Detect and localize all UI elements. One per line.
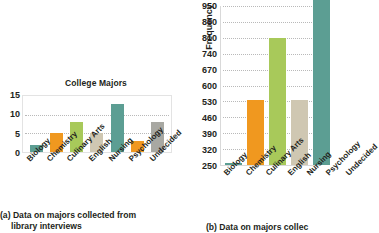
panel-a-caption-line2: library interviews xyxy=(11,221,176,232)
panel-b-ytick-460: 460 xyxy=(202,113,217,123)
panel-b-ytick-390: 390 xyxy=(202,129,217,139)
panel-a-caption-line1: (a) Data on majors collected from xyxy=(0,210,136,220)
panel-b-ytick-600: 600 xyxy=(202,81,217,91)
panel-b-ytick-810: 810 xyxy=(202,33,217,43)
panel-b-x-axis-labels: Biology Chemistry Culinary Arts English … xyxy=(220,168,330,220)
panel-b-ytick-670: 670 xyxy=(202,65,217,75)
panel-b-ytick-950: 950 xyxy=(202,1,217,11)
panel-a-chart-title: College Majors xyxy=(36,78,156,88)
panel-a-ytick-5: 5 xyxy=(15,129,20,139)
panel-a-ytick-0: 0 xyxy=(15,148,20,158)
panel-a-ytick-10: 10 xyxy=(10,109,20,119)
panel-b-bar-nursing xyxy=(313,0,330,165)
panel-a-y-axis-ticks: 15 10 5 0 xyxy=(0,95,20,153)
panel-b-ytick-250: 250 xyxy=(202,161,217,171)
panel-b-ytick-880: 880 xyxy=(202,17,217,27)
panel-b-ytick-320: 320 xyxy=(202,145,217,155)
panel-a-college-majors: College Majors 15 10 5 0 Biology xyxy=(0,78,180,232)
panel-b-ytick-530: 530 xyxy=(202,97,217,107)
panel-a-caption: (a) Data on majors collected from librar… xyxy=(0,210,176,232)
panel-b-college-majors: Frequency 950 880 810 740 670 600 530 46… xyxy=(180,0,320,232)
panel-a-x-axis-labels: Biology Chemistry Culinary Arts English … xyxy=(22,154,172,214)
panel-b-y-axis-ticks: 950 880 810 740 670 600 530 460 390 320 … xyxy=(180,6,217,166)
panel-a-ytick-15: 15 xyxy=(10,90,20,100)
panel-b-ytick-740: 740 xyxy=(202,49,217,59)
panel-b-caption: (b) Data on majors collec xyxy=(206,222,356,233)
